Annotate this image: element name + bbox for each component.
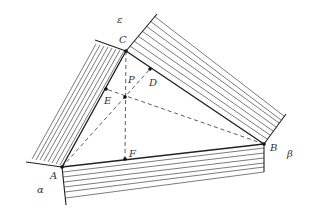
label-p: P [127,74,135,85]
label-f: F [128,148,137,159]
point-c [124,49,128,53]
label-a: A [49,170,57,181]
point-d [148,67,152,71]
point-e [104,87,108,91]
label-e: E [103,95,112,106]
point-f [123,157,127,161]
label-b: B [269,142,277,153]
point-a [60,165,64,169]
plane-edge-c-top [126,14,157,51]
label-d: D [148,77,157,88]
point-b [262,142,266,146]
label-alpha: α [37,184,44,195]
plane-edge-b-top [264,114,286,144]
label-epsilon: ε [117,14,122,25]
label-c: C [119,34,127,45]
plane-edge-a-bottom [62,167,66,205]
point-p [123,95,127,99]
geometry-diagram: ε C P D E F A B α β [0,0,312,221]
label-beta: β [286,148,293,159]
